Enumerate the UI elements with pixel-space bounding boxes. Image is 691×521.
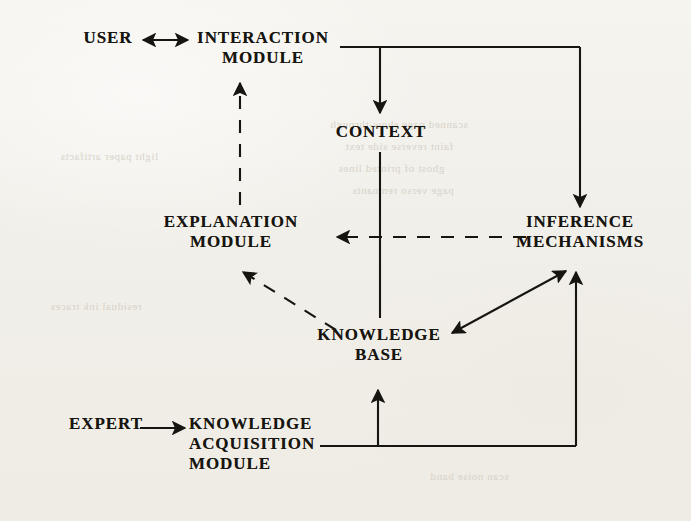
node-explanation-module: EXPLANATIONMODULE	[141, 212, 321, 252]
edge-knowledge-inference	[452, 271, 566, 333]
node-expert: EXPERT	[58, 414, 154, 434]
node-inference-mechanisms: INFERENCEMECHANISMS	[482, 212, 678, 252]
node-knowledge-acquisition-module: KNOWLEDGEACQUISITIONMODULE	[189, 414, 379, 474]
node-user: USER	[60, 28, 156, 48]
node-interaction-module: INTERACTIONMODULE	[173, 28, 353, 68]
node-knowledge-base: KNOWLEDGEBASE	[297, 325, 461, 365]
edge-knowledge-explanation	[243, 272, 336, 330]
figure-canvas: scanned page show-throughfaint reverse s…	[0, 0, 691, 521]
node-context: CONTEXT	[311, 122, 451, 142]
